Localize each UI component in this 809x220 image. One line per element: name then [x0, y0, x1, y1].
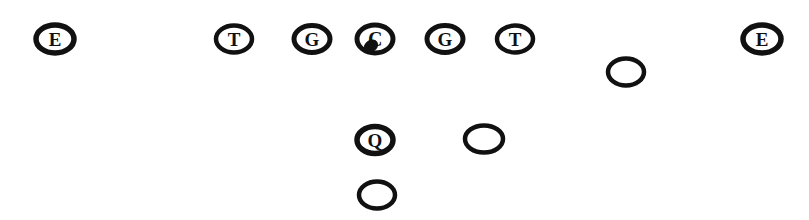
ellipse-icon: [31, 20, 80, 59]
ellipse-icon: [604, 54, 649, 90]
player-marker-right-guard[interactable]: G: [422, 21, 468, 58]
ellipse-icon: [461, 121, 508, 157]
formation-diagram: ETGCGTEQ: [0, 0, 809, 220]
player-marker-left-tackle[interactable]: T: [212, 21, 257, 57]
ellipse-icon: [493, 21, 538, 57]
ellipse-icon: [289, 21, 335, 58]
ellipse-icon: [738, 20, 787, 59]
ellipse-icon: [355, 177, 400, 213]
player-marker-right-end[interactable]: E: [738, 20, 787, 59]
player-marker-center[interactable]: C: [352, 20, 398, 58]
player-marker-quarterback[interactable]: Q: [352, 121, 399, 159]
player-marker-right-half-back[interactable]: [461, 121, 508, 157]
ellipse-icon: [212, 21, 257, 57]
player-marker-left-guard[interactable]: G: [289, 21, 335, 58]
player-marker-right-wing-back[interactable]: [604, 54, 649, 90]
player-marker-left-end[interactable]: E: [31, 20, 80, 59]
player-marker-right-tackle[interactable]: T: [493, 21, 538, 57]
ellipse-icon: [352, 121, 399, 159]
ellipse-icon: [422, 21, 468, 58]
player-marker-full-back[interactable]: [355, 177, 400, 213]
